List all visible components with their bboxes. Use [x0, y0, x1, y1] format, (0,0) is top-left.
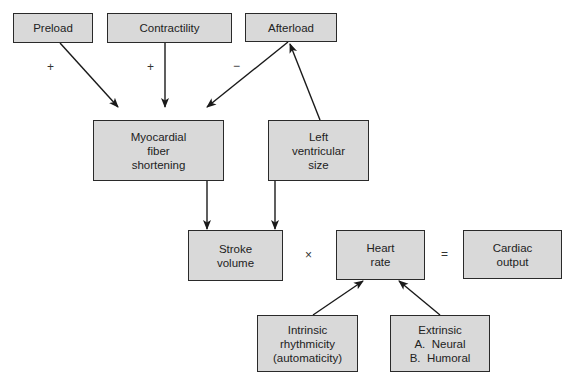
- node-label: Contractility: [139, 21, 199, 35]
- node-afterload: Afterload: [245, 13, 337, 42]
- operator-equals: =: [441, 247, 448, 261]
- node-label-line: Heart: [366, 241, 394, 255]
- node-label-line: A. Neural: [414, 337, 465, 351]
- sign-preload: +: [47, 60, 54, 74]
- node-label-line: (automaticity): [273, 351, 342, 365]
- node-label-line: fiber: [147, 144, 169, 158]
- node-extrinsic: Extrinsic A. Neural B. Humoral: [390, 315, 490, 372]
- node-heart-rate: Heart rate: [336, 230, 425, 280]
- node-label: Preload: [33, 21, 73, 35]
- node-label-line: size: [308, 158, 328, 172]
- sign-contractility: +: [147, 60, 154, 74]
- node-stroke-volume: Stroke volume: [188, 230, 283, 281]
- node-myocardial-fiber-shortening: Myocardial fiber shortening: [93, 120, 224, 181]
- node-contractility: Contractility: [107, 13, 232, 43]
- node-label-line: output: [497, 255, 529, 269]
- node-left-ventricular-size: Left ventricular size: [268, 120, 369, 181]
- node-label-line: Left: [309, 130, 328, 144]
- node-label-line: volume: [217, 256, 254, 270]
- node-label-line: shortening: [132, 158, 186, 172]
- operator-times: ×: [305, 248, 312, 262]
- node-label-line: Extrinsic: [418, 323, 461, 337]
- node-intrinsic-rhythmicity: Intrinsic rhythmicity (automaticity): [257, 315, 358, 372]
- node-label: Afterload: [268, 21, 314, 35]
- node-label-line: rate: [371, 255, 391, 269]
- node-preload: Preload: [13, 13, 93, 43]
- node-label-line: Stroke: [219, 242, 252, 256]
- node-cardiac-output: Cardiac output: [463, 230, 562, 279]
- node-label-line: Cardiac: [493, 241, 533, 255]
- node-label-line: rhythmicity: [280, 337, 335, 351]
- node-label-line: Intrinsic: [288, 323, 328, 337]
- node-label-line: Myocardial: [131, 130, 187, 144]
- sign-afterload: −: [233, 59, 240, 73]
- node-label-line: ventricular: [292, 144, 345, 158]
- node-label-line: B. Humoral: [410, 351, 471, 365]
